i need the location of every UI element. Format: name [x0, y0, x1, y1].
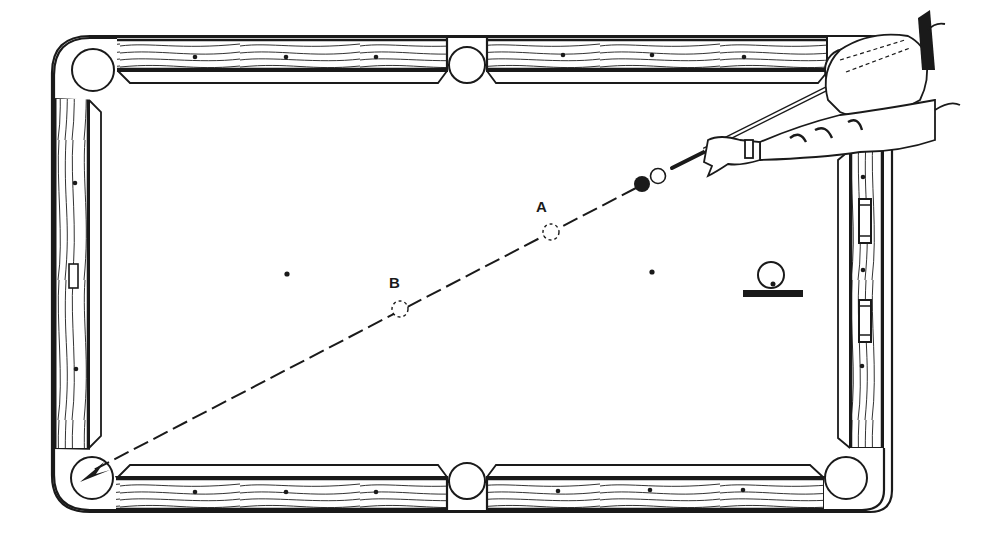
diamond-marker	[860, 364, 865, 369]
bottom-rail-right	[487, 477, 824, 511]
ghost-ball-b	[392, 301, 408, 317]
diamond-marker	[861, 268, 866, 273]
diamond-marker	[741, 488, 746, 493]
diamond-marker	[193, 55, 198, 60]
left-rail	[53, 98, 89, 449]
pocket-bottom-right	[824, 448, 884, 510]
foot-spot	[649, 269, 654, 274]
ball-contact-point-icon	[743, 262, 803, 297]
diamond-marker	[556, 489, 561, 494]
head-spot	[284, 271, 289, 276]
diamond-marker	[650, 53, 655, 58]
ghost-ball-b-label: B	[389, 275, 400, 290]
top-rail-right	[487, 37, 827, 71]
cue-ball	[651, 169, 666, 184]
right-rail	[850, 150, 883, 448]
diamond-marker	[648, 488, 653, 493]
table-drawing	[0, 0, 984, 547]
pocket-top-middle	[447, 37, 487, 83]
ghost-ball-a	[543, 224, 559, 240]
ghost-ball-a-label: A	[536, 199, 547, 214]
diamond-marker	[561, 53, 566, 58]
diamond-marker	[861, 175, 866, 180]
bottom-rail-left	[115, 477, 447, 511]
diamond-marker	[193, 490, 198, 495]
pocket-bottom-middle	[447, 463, 487, 511]
diamond-marker	[374, 490, 379, 495]
rail-plate	[69, 264, 78, 288]
diamond-marker	[284, 55, 289, 60]
diamond-marker	[742, 55, 747, 60]
pool-table-diagram: A B	[0, 0, 984, 547]
diamond-marker	[74, 367, 79, 372]
diamond-marker	[374, 55, 379, 60]
diamond-marker	[73, 181, 78, 186]
object-ball	[634, 176, 650, 192]
diamond-marker	[284, 490, 289, 495]
top-rail-left	[115, 37, 447, 71]
